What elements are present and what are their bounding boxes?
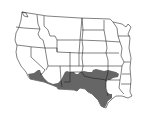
range-southwest [28, 69, 119, 108]
range-map [0, 0, 141, 120]
us-landmass [15, 12, 132, 108]
